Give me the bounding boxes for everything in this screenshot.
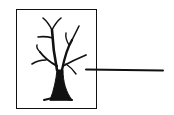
pointer-line bbox=[86, 70, 163, 71]
bare-tree-icon bbox=[32, 18, 86, 100]
diagram-canvas bbox=[0, 0, 174, 115]
